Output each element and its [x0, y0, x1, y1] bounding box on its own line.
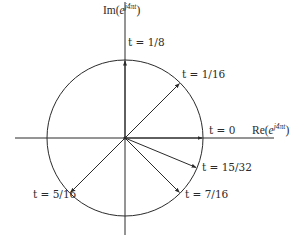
label-t-7-16: t = 7/16 — [185, 188, 229, 200]
phasor-arrow-5 — [125, 138, 196, 168]
phasor-arrow-3 — [71, 138, 125, 192]
real-axis-label: Re(ej4πt) — [252, 122, 289, 137]
label-t-0: t = 0 — [209, 124, 235, 136]
phasor-arrow-1 — [125, 84, 179, 138]
label-t-1-16: t = 1/16 — [182, 68, 226, 80]
phasor-arrow-4 — [125, 138, 179, 192]
label-t-5-16: t = 5/16 — [33, 188, 77, 200]
label-t-15-32: t = 15/32 — [202, 161, 252, 173]
phasor-group — [71, 61, 202, 192]
imaginary-axis-label: Im(ej4πt) — [103, 2, 140, 17]
origin-dot — [123, 136, 126, 139]
phasor-diagram: Im(ej4πt) Re(ej4πt) t = 0 t = 1/16 t = 1… — [0, 0, 305, 245]
label-t-1-8: t = 1/8 — [128, 36, 165, 48]
